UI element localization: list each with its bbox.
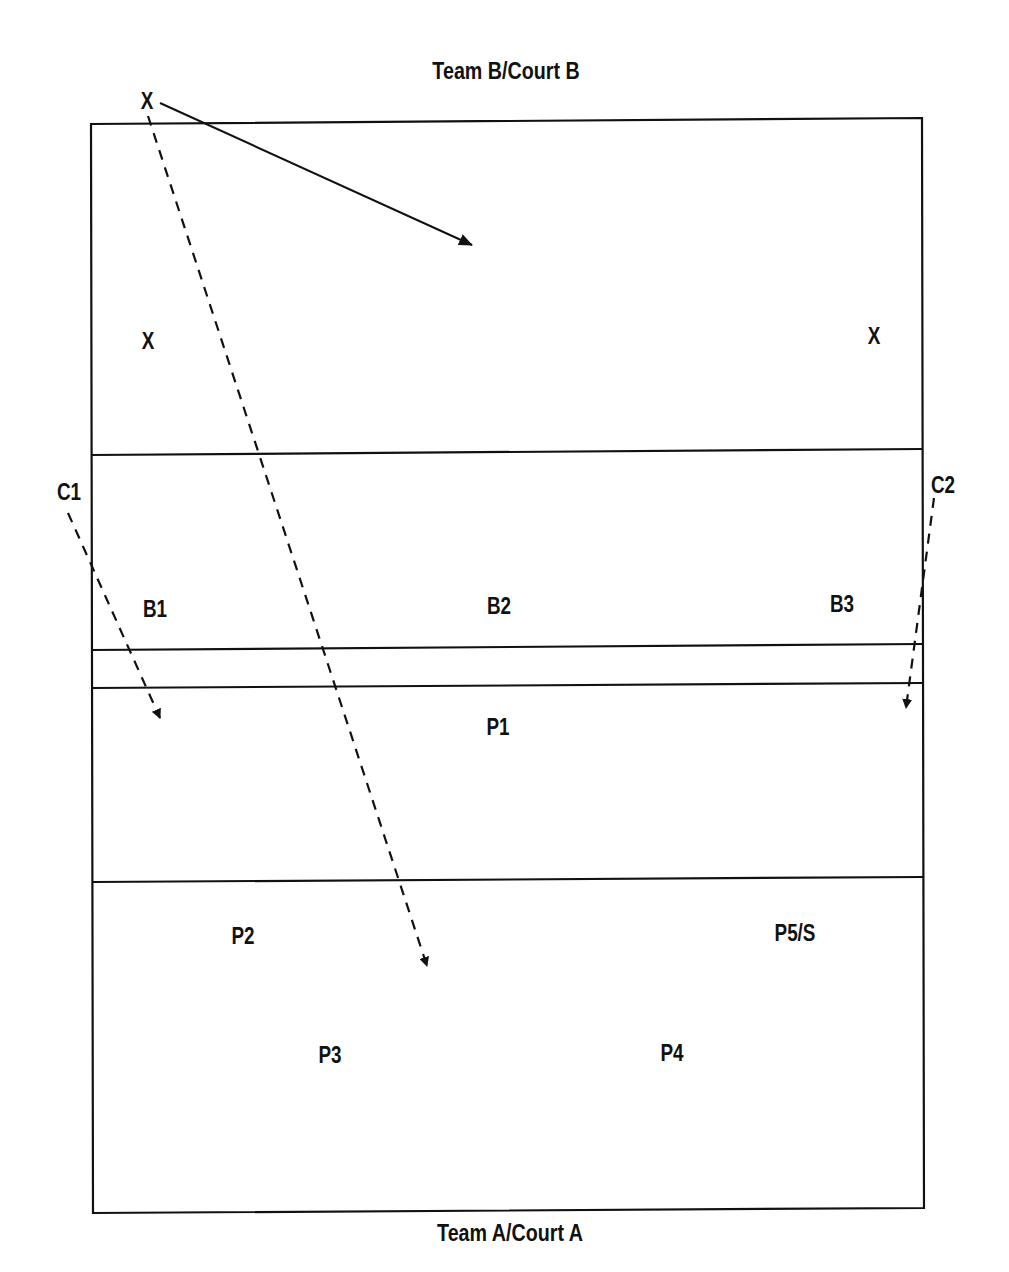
- marker-server-x: X: [141, 90, 154, 113]
- title-team-a: Team A/Court A: [437, 1221, 583, 1245]
- marker-p2: P2: [231, 925, 254, 948]
- marker-b2: B2: [487, 595, 511, 618]
- marker-p1: P1: [486, 716, 509, 739]
- net-top-line: [92, 644, 922, 650]
- marker-p5: P5/S: [775, 922, 816, 945]
- attack-line-b: [91, 449, 922, 455]
- marker-c1: C1: [57, 481, 81, 504]
- marker-p4: P4: [660, 1042, 683, 1065]
- court-boundary: [91, 118, 924, 1213]
- serve-arrow-dashed: [148, 116, 427, 966]
- marker-c2: C2: [931, 474, 955, 497]
- serve-arrow-solid: [160, 103, 472, 245]
- c2-arrow-dashed: [906, 498, 934, 708]
- title-team-b: Team B/Court B: [432, 59, 579, 83]
- net-bottom-line: [92, 683, 922, 688]
- marker-b1: B1: [143, 598, 167, 621]
- volleyball-court-diagram: Team B/Court B Team A/Court A X X X C1 C…: [0, 0, 1009, 1272]
- attack-line-a: [93, 877, 923, 882]
- marker-p3: P3: [318, 1044, 341, 1067]
- marker-x-left: X: [142, 330, 155, 353]
- court-drawing: [0, 0, 1009, 1272]
- marker-b3: B3: [830, 593, 854, 616]
- marker-x-right: X: [868, 325, 881, 348]
